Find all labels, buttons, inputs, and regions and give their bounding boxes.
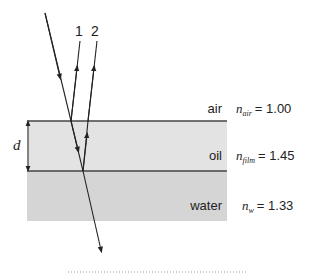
medium-label-oil: oil <box>209 148 222 163</box>
water-layer <box>27 171 227 221</box>
reflected-ray-1-arrow <box>71 68 77 121</box>
oil-layer <box>27 121 227 171</box>
thin-film-diagram: d 1 2 air oil water nair= 1.00 nfilm= 1.… <box>0 0 312 279</box>
index-film: nfilm= 1.45 <box>236 148 294 165</box>
index-water: nw= 1.33 <box>242 198 293 215</box>
ray-label-2: 2 <box>91 23 99 39</box>
ray-label-1: 1 <box>75 23 83 39</box>
thickness-label: d <box>13 137 21 153</box>
index-air: nair= 1.00 <box>236 101 291 118</box>
reflected-ray-2-arrow <box>88 68 94 121</box>
medium-label-air: air <box>208 101 223 116</box>
medium-label-water: water <box>189 198 222 213</box>
incident-ray-arrowhead <box>45 13 60 77</box>
